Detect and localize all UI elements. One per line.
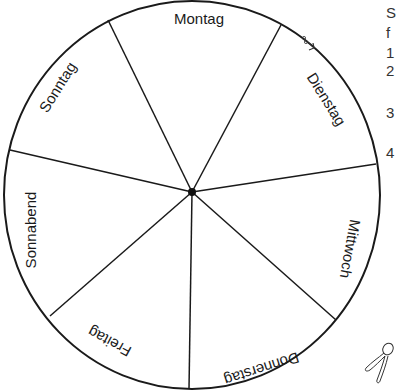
day-label-freitag: Freitag	[85, 323, 134, 360]
side-text-char: 2	[386, 62, 394, 79]
day-label-mittwoch: Mittwoch	[337, 218, 364, 279]
day-label-sonnabend: Sonnabend	[22, 192, 39, 269]
side-text-char: f	[386, 24, 390, 41]
center-pin-dot	[188, 188, 196, 196]
split-pin-icon	[365, 341, 395, 383]
side-text-char: 1	[386, 44, 394, 61]
side-text-char: 3	[386, 104, 394, 121]
side-text-char: S	[386, 4, 396, 21]
side-text-char: 4	[386, 144, 394, 161]
day-label-montag: Montag	[174, 10, 224, 27]
day-label-donnerstag: Donnerstag	[222, 349, 301, 389]
day-label-sonntag: Sonntag	[35, 59, 79, 115]
weekday-wheel: Montag Dienstag Mittwoch Donnerstag Frei…	[0, 0, 398, 391]
